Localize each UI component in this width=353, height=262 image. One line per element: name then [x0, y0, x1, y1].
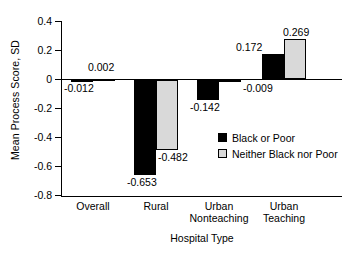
gray-square-icon: [218, 149, 227, 158]
bar-urban-nonteaching-black-or-poor: [197, 80, 219, 101]
data-label-urban-nonteaching-black-or-poor: -0.142: [190, 102, 220, 113]
y-tick-label-1: 0.2: [6, 45, 52, 55]
x-axis-line: [61, 196, 342, 197]
data-label-urban-teaching-neither-black-nor-poor: 0.269: [283, 27, 309, 38]
y-tick-label-text: -0.4: [8, 132, 52, 142]
y-axis-line: [61, 21, 62, 197]
y-tick-label-text: -0.2: [8, 103, 52, 113]
x-tick-label-line: Rural: [121, 200, 191, 212]
data-label-overall-neither-black-nor-poor: 0.002: [88, 62, 114, 73]
x-axis-title: Hospital Type: [62, 232, 342, 244]
data-label-rural-black-or-poor: -0.653: [127, 177, 157, 188]
bar-rural-neither-black-nor-poor: [156, 80, 178, 150]
x-tick-label-line: Urban: [184, 200, 254, 212]
bar-urban-teaching-black-or-poor: [262, 54, 284, 80]
x-tick-label-overall: Overall: [58, 200, 128, 212]
bar-chart: Mean Process Score, SD 0.4 0.2 0 -0.2 -0…: [0, 0, 353, 262]
y-tick-label-6: -0.8: [6, 190, 52, 200]
legend-item-label: Neither Black nor Poor: [232, 148, 338, 160]
x-tick-label-urban-teaching: Urban Teaching: [249, 200, 319, 224]
x-tick-label-rural: Rural: [121, 200, 191, 212]
y-tick-label-text: 0: [8, 74, 52, 84]
y-tick-label-4: -0.4: [6, 132, 52, 142]
x-tick-label-line: Urban: [249, 200, 319, 212]
y-tick-label-5: -0.6: [6, 161, 52, 171]
black-square-icon: [218, 133, 227, 142]
y-tick-label-text: 0.4: [8, 16, 52, 26]
x-tick-label-line: Overall: [58, 200, 128, 212]
y-tick-label-text: -0.8: [8, 190, 52, 200]
x-tick-label-urban-nonteaching: Urban Nonteaching: [184, 200, 254, 224]
y-tick-label-2: 0: [6, 74, 52, 84]
legend-item-neither-black-nor-poor: Neither Black nor Poor: [218, 147, 338, 160]
data-label-overall-black-or-poor: -0.012: [64, 83, 94, 94]
bar-urban-teaching-neither-black-nor-poor: [284, 39, 306, 79]
y-tick-label-3: -0.2: [6, 103, 52, 113]
y-tick-label-0: 0.4: [6, 16, 52, 26]
legend: Black or Poor Neither Black nor Poor: [218, 131, 338, 163]
y-tick-label-text: -0.6: [8, 161, 52, 171]
y-tick-label-text: 0.2: [8, 45, 52, 55]
bar-urban-nonteaching-neither-black-nor-poor: [219, 80, 241, 83]
bar-overall-neither-black-nor-poor: [93, 79, 115, 81]
data-label-rural-neither-black-nor-poor: -0.482: [158, 152, 188, 163]
x-tick-label-line: Nonteaching: [184, 212, 254, 224]
bar-rural-black-or-poor: [134, 80, 156, 175]
legend-item-black-or-poor: Black or Poor: [218, 131, 338, 144]
legend-item-label: Black or Poor: [232, 132, 295, 144]
x-tick-label-line: Teaching: [249, 212, 319, 224]
data-label-urban-nonteaching-neither-black-nor-poor: -0.009: [243, 83, 273, 94]
data-label-urban-teaching-black-or-poor: 0.172: [236, 42, 262, 53]
